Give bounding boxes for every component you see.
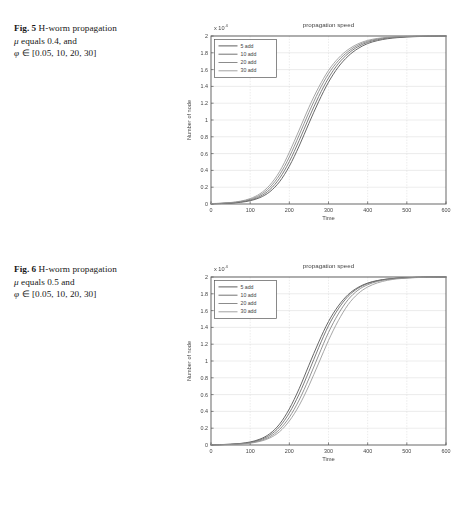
y-tick-label: 0	[205, 201, 208, 207]
legend-label: 10 add	[241, 51, 257, 57]
figure-caption-line1-6: H-worm propagation	[39, 264, 117, 274]
y-tick-label: 0.6	[201, 151, 209, 157]
y-tick-label: 0	[205, 442, 208, 448]
x-tick-label: 200	[285, 207, 294, 213]
y-tick-label: 1.6	[201, 308, 209, 314]
y-tick-label: 1.2	[201, 341, 209, 347]
legend-label: 10 add	[241, 292, 257, 298]
phi-symbol-6: φ	[14, 289, 19, 299]
x-tick-label: 600	[442, 207, 451, 213]
page-root: Fig. 5 H-worm propagation μ equals 0.4, …	[0, 0, 471, 505]
x-tick-label: 300	[324, 207, 333, 213]
mu-symbol-5: μ	[14, 36, 19, 46]
x-tick-label: 300	[324, 448, 333, 454]
y-axis-multiplier-6: x 10	[214, 266, 225, 272]
x-tick-label: 100	[246, 207, 255, 213]
figure-caption-line3-5: ∈ [0.05, 10, 20, 30]	[22, 48, 97, 58]
x-tick-label: 200	[285, 448, 294, 454]
y-tick-label: 0.4	[201, 408, 209, 414]
figure-caption-6: Fig. 6 H-worm propagation μ equals 0.5 a…	[14, 263, 186, 301]
figure-caption-line3-6: ∈ [0.05, 10, 20, 30]	[22, 289, 97, 299]
y-tick-label: 1.8	[201, 50, 209, 56]
y-tick-label: 1.4	[201, 324, 209, 330]
y-axis-exponent-5: 4	[226, 23, 229, 28]
y-tick-label: 1	[205, 117, 208, 123]
y-tick-label: 0.8	[201, 134, 209, 140]
figure-caption-line1-5: H-worm propagation	[39, 23, 117, 33]
x-tick-label: 0	[210, 448, 213, 454]
y-tick-label: 1.6	[201, 67, 209, 73]
y-axis-label-5: Number of node	[186, 100, 192, 140]
figure-caption-5: Fig. 5 H-worm propagation μ equals 0.4, …	[14, 22, 186, 60]
phi-symbol-5: φ	[14, 48, 19, 58]
legend-label: 5 add	[241, 43, 254, 49]
legend-label: 30 add	[241, 67, 257, 73]
legend-label: 5 add	[241, 284, 254, 290]
y-tick-label: 1.4	[201, 83, 209, 89]
mu-symbol-6: μ	[14, 277, 19, 287]
y-tick-label: 0.4	[201, 167, 209, 173]
legend-label: 20 add	[241, 300, 257, 306]
x-tick-label: 600	[442, 448, 451, 454]
y-tick-label: 1.8	[201, 291, 209, 297]
x-tick-label: 0	[210, 207, 213, 213]
figure-label-6: Fig. 6	[14, 264, 36, 274]
y-tick-label: 1.2	[201, 100, 209, 106]
y-tick-label: 0.2	[201, 184, 209, 190]
y-tick-label: 0.2	[201, 425, 209, 431]
legend-label: 30 add	[241, 308, 257, 314]
plot-svg-5: propagation speedx 10400.20.40.60.811.21…	[178, 14, 463, 239]
x-tick-label: 400	[363, 448, 372, 454]
plot-container-6: propagation speedx 10400.20.40.60.811.21…	[178, 255, 463, 480]
y-axis-exponent-6: 4	[226, 264, 229, 269]
y-tick-label: 0.6	[201, 392, 209, 398]
y-axis-label-6: Number of node	[186, 341, 192, 381]
x-tick-label: 100	[246, 448, 255, 454]
plot-container-5: propagation speedx 10400.20.40.60.811.21…	[178, 14, 463, 239]
x-tick-label: 500	[402, 207, 411, 213]
y-tick-label: 1	[205, 358, 208, 364]
y-tick-label: 2	[205, 274, 208, 280]
y-tick-label: 0.8	[201, 375, 209, 381]
chart-title-5: propagation speed	[303, 21, 355, 28]
figure-caption-line2-6: equals 0.5 and	[21, 277, 75, 287]
figure-caption-line2-5: equals 0.4, and	[21, 36, 77, 46]
chart-title-6: propagation speed	[303, 262, 355, 269]
plot-svg-6: propagation speedx 10400.20.40.60.811.21…	[178, 255, 463, 480]
y-axis-multiplier-5: x 10	[214, 25, 225, 31]
figure-label-5: Fig. 5	[14, 23, 36, 33]
x-axis-label-5: Time	[322, 215, 335, 221]
x-tick-label: 500	[402, 448, 411, 454]
legend-label: 20 add	[241, 59, 257, 65]
y-tick-label: 2	[205, 33, 208, 39]
x-axis-label-6: Time	[322, 456, 335, 462]
x-tick-label: 400	[363, 207, 372, 213]
